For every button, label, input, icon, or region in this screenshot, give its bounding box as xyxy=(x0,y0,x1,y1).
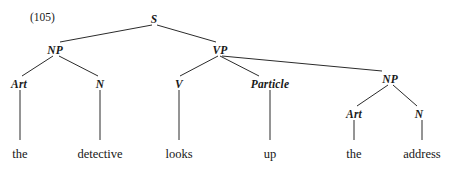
tree-node-v: V xyxy=(175,79,183,91)
example-number: (105) xyxy=(30,11,55,23)
tree-node-np2: NP xyxy=(382,74,398,86)
tree-node-np1: NP xyxy=(47,45,63,57)
terminal-word-w-up: up xyxy=(264,148,277,161)
tree-node-particle: Particle xyxy=(251,79,290,91)
tree-node-n1: N xyxy=(96,79,105,91)
tree-edge-VP-to-V xyxy=(180,56,218,76)
tree-edge-S-to-NP1 xyxy=(60,25,152,42)
tree-node-art1: Art xyxy=(11,79,27,91)
tree-node-n2: N xyxy=(415,109,424,121)
terminal-word-w-detective: detective xyxy=(77,148,122,161)
terminal-word-w-the2: the xyxy=(346,148,361,161)
tree-node-vp: VP xyxy=(212,45,227,57)
tree-edge-NP1-to-Art1 xyxy=(22,56,53,76)
terminal-word-w-address: address xyxy=(403,148,441,161)
terminal-word-w-looks: looks xyxy=(165,148,192,161)
syntax-tree-figure: (105) SNPVPArtNVParticleNPArtNthedetecti… xyxy=(0,0,454,169)
tree-edge-VP-to-NP2 xyxy=(222,56,382,71)
tree-edge-NP1-to-N1 xyxy=(59,56,98,76)
tree-edge-S-to-VP xyxy=(157,25,216,42)
tree-node-art2: Art xyxy=(346,109,362,121)
tree-edge-NP2-to-Art2 xyxy=(357,85,388,106)
tree-edge-NP2-to-N2 xyxy=(393,85,417,106)
terminal-word-w-the1: the xyxy=(12,148,27,161)
tree-node-s: S xyxy=(151,14,158,26)
